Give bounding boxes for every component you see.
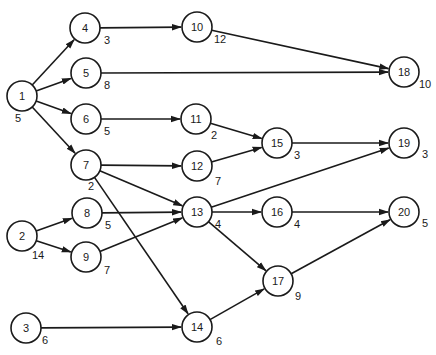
node-20: 205 [389,197,428,229]
node-label: 5 [83,67,89,79]
duration-label: 10 [419,78,431,90]
duration-label: 5 [15,112,21,124]
node-label: 3 [23,322,29,334]
edge-1-to-6 [36,101,71,114]
node-11: 112 [181,104,217,141]
duration-label: 2 [88,180,94,192]
duration-label: 3 [294,149,300,161]
node-label: 14 [191,321,203,333]
node-9: 97 [71,242,110,276]
duration-label: 4 [294,218,300,230]
node-label: 11 [190,113,201,125]
node-label: 13 [191,206,203,218]
duration-label: 9 [295,290,301,302]
node-13: 134 [182,197,221,230]
duration-label: 7 [215,175,221,187]
node-5: 58 [71,58,110,91]
node-3: 36 [11,313,48,346]
node-8: 85 [72,198,111,231]
node-label: 1 [19,90,25,102]
node-label: 9 [83,251,89,263]
node-label: 6 [83,113,89,125]
edge-1-to-4 [32,40,74,85]
nodes-layer: 1521436435865728597101211212713414615316… [7,12,431,347]
duration-label: 5 [422,217,428,229]
edge-7-to-13 [100,171,183,206]
edge-7-to-14 [95,177,189,313]
edge-5-to-18 [101,72,388,73]
edge-17-to-20 [291,220,390,274]
edge-7-to-12 [101,165,181,166]
duration-label: 6 [42,334,48,346]
node-label: 15 [271,137,283,149]
duration-label: 2 [211,129,217,141]
node-label: 4 [82,22,88,34]
edge-10-to-18 [212,30,389,68]
edge-3-to-14 [41,327,181,328]
node-15: 153 [262,128,300,161]
node-label: 17 [272,275,284,287]
duration-label: 6 [216,335,222,347]
node-10: 1012 [182,12,226,45]
node-19: 193 [389,128,428,160]
duration-label: 7 [104,264,110,276]
edge-12-to-15 [211,147,261,162]
node-1: 15 [7,81,37,124]
edge-1-to-7 [32,107,75,153]
node-label: 12 [191,160,203,172]
duration-label: 8 [104,79,110,91]
node-4: 43 [70,13,110,46]
node-6: 65 [71,104,110,137]
node-label: 19 [398,137,410,149]
duration-label: 5 [104,125,110,137]
node-label: 8 [84,207,90,219]
duration-label: 4 [215,218,221,230]
duration-label: 3 [104,34,110,46]
edge-4-to-10 [100,27,181,28]
duration-label: 14 [32,249,44,261]
node-label: 16 [271,206,283,218]
duration-label: 3 [422,148,428,160]
node-14: 146 [182,312,222,347]
edge-1-to-5 [36,78,71,91]
node-18: 1810 [389,57,431,90]
duration-label: 5 [105,219,111,231]
duration-label: 12 [214,33,226,45]
edge-11-to-15 [210,123,261,138]
node-12: 127 [182,151,221,187]
node-7: 72 [71,150,101,192]
node-label: 2 [19,230,25,242]
node-label: 7 [83,159,89,171]
edge-8-to-13 [102,212,181,213]
node-16: 164 [262,197,300,230]
node-label: 20 [398,206,410,218]
node-label: 18 [398,66,410,78]
node-label: 10 [191,21,203,33]
edge-2-to-8 [36,218,72,231]
edge-14-to-17 [210,289,264,320]
activity-network-diagram: 1521436435865728597101211212713414615316… [0,0,436,355]
